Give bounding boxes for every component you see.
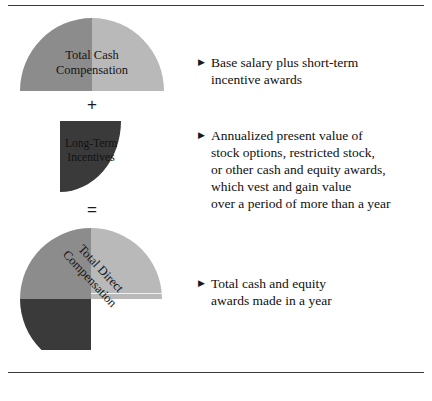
segment-hairline xyxy=(91,293,162,294)
bullet-text-annualized-present-value: Annualized present value of stock option… xyxy=(211,127,428,212)
bullet-item-total-cash-and-equity: ▶ Total cash and equity awards made in a… xyxy=(198,275,428,309)
diagram-column: Total Cash Compensation + Long-Term Ince… xyxy=(0,0,195,372)
shape-segment-quadrant xyxy=(60,121,121,192)
shape-total-direct-compensation xyxy=(20,228,162,350)
bullet-column: ▶ Base salary plus short-term incentive … xyxy=(198,0,432,372)
bullet-text-total-cash-and-equity: Total cash and equity awards made in a y… xyxy=(211,275,428,309)
operator-plus: + xyxy=(77,95,107,115)
shape-total-cash-compensation xyxy=(20,18,164,91)
bullet-text-base-salary: Base salary plus short-term incentive aw… xyxy=(211,54,428,88)
operator-equals: = xyxy=(77,200,107,220)
bullet-triangle-icon: ▶ xyxy=(198,275,211,292)
bullet-triangle-icon: ▶ xyxy=(198,127,211,144)
bullet-triangle-icon: ▶ xyxy=(198,54,211,71)
compensation-diagram-figure: Total Cash Compensation + Long-Term Ince… xyxy=(0,0,432,401)
bottom-divider xyxy=(8,372,424,373)
bullet-item-base-salary: ▶ Base salary plus short-term incentive … xyxy=(198,54,428,88)
bullet-item-annualized-present-value: ▶ Annualized present value of stock opti… xyxy=(198,127,428,212)
shape-long-term-incentives xyxy=(60,121,121,192)
